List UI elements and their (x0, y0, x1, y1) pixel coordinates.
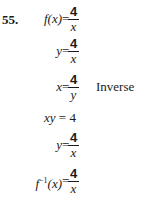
numerator: 4 (68, 132, 79, 144)
expression-rest: = 4 (59, 110, 76, 125)
numerator: 4 (68, 38, 79, 50)
lhs-superscript: −1 (39, 176, 48, 185)
equation-step-2: y = 4 x (0, 38, 146, 68)
denominator: x (68, 20, 79, 33)
expression: xy = 4 (44, 111, 76, 124)
equation-step-5: y = 4 x (0, 132, 146, 162)
equation-step-1: f(x) = 4 x (0, 6, 146, 36)
lhs: f(x) (44, 12, 62, 25)
equation-step-6: f−1(x) = 4 x (0, 168, 146, 198)
denominator: x (68, 52, 79, 65)
numerator: 4 (68, 168, 79, 180)
lhs-argument: (x) (48, 176, 62, 191)
numerator: 4 (68, 6, 79, 18)
denominator: y (68, 88, 79, 101)
numerator: 4 (68, 74, 79, 86)
inverse-label: Inverse (96, 80, 134, 93)
equation-step-3: x = 4 y Inverse (0, 74, 146, 104)
lhs: f−1(x) (35, 174, 62, 190)
denominator: x (68, 146, 79, 159)
denominator: x (68, 182, 79, 195)
